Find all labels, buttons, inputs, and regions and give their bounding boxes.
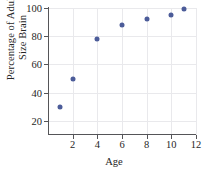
- data-point: [181, 7, 186, 12]
- y-axis-title-line2: Size Brain: [16, 0, 28, 98]
- gridline-vertical: [97, 8, 98, 135]
- y-tick-label: 60: [32, 59, 43, 70]
- y-axis-line: [48, 7, 49, 135]
- gridline-vertical: [73, 8, 74, 135]
- data-point: [58, 104, 63, 109]
- x-tick-label: 10: [166, 139, 177, 150]
- y-tick-label: 100: [26, 3, 42, 14]
- y-tick-mark: [44, 8, 48, 9]
- y-axis-title-line1: Percentage of Adult: [5, 0, 17, 98]
- y-tick-mark: [44, 64, 48, 65]
- data-point: [169, 13, 174, 18]
- gridline-vertical: [196, 8, 197, 135]
- gridline-vertical: [147, 8, 148, 135]
- x-axis-title: Age: [0, 156, 206, 167]
- data-point: [120, 22, 125, 27]
- plot-area: 20406080100 24681012: [48, 8, 196, 135]
- gridline-vertical: [171, 8, 172, 135]
- x-tick-label: 8: [144, 139, 149, 150]
- x-tick-label: 6: [119, 139, 124, 150]
- y-tick-label: 40: [32, 87, 43, 98]
- data-point: [70, 76, 75, 81]
- x-tick-label: 2: [70, 139, 75, 150]
- data-point: [95, 37, 100, 42]
- y-tick-label: 20: [32, 115, 43, 126]
- scatter-chart: Percentage of Adult Size Brain 204060801…: [0, 0, 206, 179]
- x-tick-label: 4: [95, 139, 100, 150]
- y-tick-mark: [44, 93, 48, 94]
- y-axis-title: Percentage of Adult Size Brain: [5, 0, 28, 98]
- data-point: [144, 17, 149, 22]
- y-tick-mark: [44, 36, 48, 37]
- x-tick-label: 12: [191, 139, 202, 150]
- y-tick-mark: [44, 121, 48, 122]
- y-tick-label: 80: [32, 31, 43, 42]
